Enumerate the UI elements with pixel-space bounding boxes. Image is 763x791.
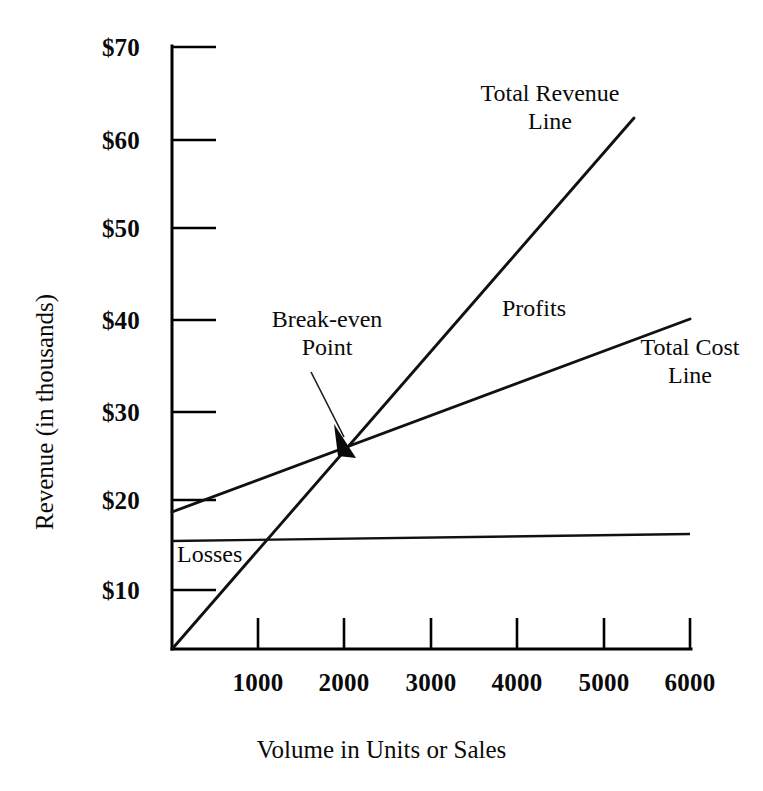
- x-axis-title: Volume in Units or Sales: [0, 735, 763, 764]
- x-axis-ticks: [258, 618, 690, 649]
- y-tick-label-30: $30: [52, 398, 140, 427]
- y-tick-label-70: $70: [52, 33, 140, 62]
- total-revenue-line-label: Total Revenue Line: [440, 80, 660, 136]
- y-tick-label-20: $20: [52, 486, 140, 515]
- y-tick-label-60: $60: [52, 126, 140, 155]
- fixed-cost-line: [172, 534, 690, 541]
- break-even-chart: $70 $60 $50 $40 $30 $20 $10 1000 2000 30…: [0, 0, 763, 791]
- total-cost-line-label: Total Cost Line: [615, 334, 763, 390]
- y-tick-label-10: $10: [52, 576, 140, 605]
- x-tick-label-6000: 6000: [630, 668, 750, 697]
- y-tick-label-40: $40: [52, 306, 140, 335]
- y-axis-title: Revenue (in thousands): [30, 294, 59, 530]
- break-even-arrow-shaft: [311, 372, 344, 437]
- losses-label: Losses: [177, 541, 242, 569]
- profits-label: Profits: [502, 295, 566, 323]
- y-tick-label-50: $50: [52, 214, 140, 243]
- break-even-point-label: Break-even Point: [237, 306, 417, 362]
